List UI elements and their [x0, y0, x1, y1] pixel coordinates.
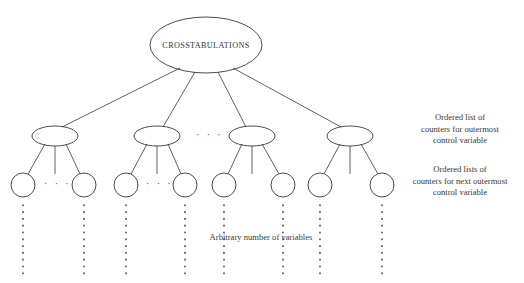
edges-root-to-level2 [62, 68, 341, 127]
node-root-group: CROSSTABULATIONS [150, 17, 262, 73]
caption-arbitrary-number-of-variables: Arbitrary number of variables [175, 232, 347, 244]
edge-node2-left [131, 144, 147, 174]
node-level3-1 [11, 173, 35, 197]
edge-root-to-node3 [218, 72, 246, 127]
node-level2-3 [229, 126, 275, 146]
node-level3-4 [173, 173, 197, 197]
edge-node1-left [28, 144, 45, 174]
edge-node4-right [361, 144, 378, 174]
node-level3-6 [271, 173, 295, 197]
node-root-label: CROSSTABULATIONS [162, 41, 249, 50]
node-level2-1 [32, 126, 78, 146]
edge-node3-right [262, 144, 279, 174]
edge-node4-left [324, 144, 340, 174]
edge-node3-left [228, 144, 242, 174]
edge-root-to-node4 [233, 68, 341, 127]
edge-node1-right [66, 144, 80, 174]
ellipsis-between-level2-nodes: · · · [196, 129, 223, 140]
node-level3-7 [308, 173, 332, 197]
edge-node2-right [168, 144, 181, 174]
ellipsis-between-circles-group1: · · · [44, 178, 71, 189]
node-level3-2 [72, 173, 96, 197]
annotation-next-outermost-control-variable: Ordered lists of counters for next outer… [396, 164, 524, 199]
ellipsis-between-circles-group2: · · · [146, 178, 173, 189]
node-level2-4 [327, 126, 373, 146]
edge-root-to-node2 [163, 72, 195, 127]
node-level3-3 [114, 173, 138, 197]
node-level3-5 [212, 173, 236, 197]
node-level2-2 [134, 126, 180, 146]
annotation-outermost-control-variable: Ordered list of counters for outermost c… [398, 112, 522, 147]
node-level3-8 [370, 173, 394, 197]
edge-root-to-node1 [62, 68, 180, 127]
edges-level2-to-level3 [28, 144, 378, 174]
crosstabulations-tree-diagram: CROSSTABULATIONS [0, 0, 524, 283]
